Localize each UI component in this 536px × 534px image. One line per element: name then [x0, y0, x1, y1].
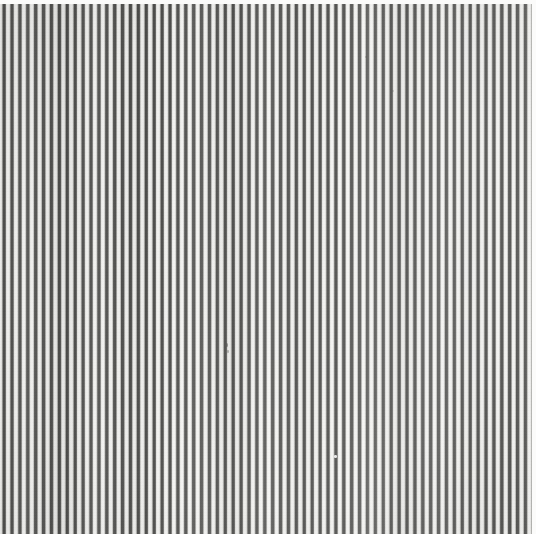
surface-speck-c	[334, 455, 337, 458]
vertical-stripe-field	[0, 4, 532, 534]
artwork-canvas	[0, 0, 536, 534]
surface-speck-a	[225, 343, 228, 347]
top-paper-margin	[0, 0, 536, 4]
right-paper-margin	[532, 0, 536, 534]
edge-vignette	[0, 4, 532, 534]
surface-speck-e	[392, 90, 394, 92]
surface-speck-d	[365, 56, 367, 58]
surface-speck-f	[11, 262, 13, 264]
surface-speck-b	[227, 350, 229, 353]
